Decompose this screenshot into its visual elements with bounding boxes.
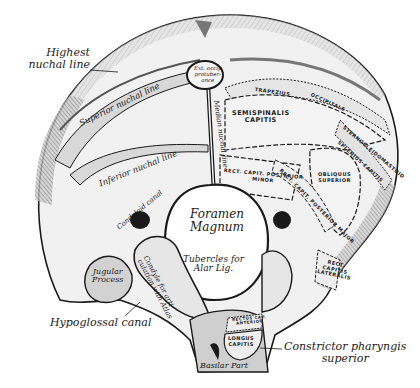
- label-line: Process: [92, 276, 123, 284]
- label-tubercles-alar: Tubercles for Alar Lig.: [183, 255, 244, 274]
- label-line: superior: [284, 353, 406, 365]
- label-semispinalis-capitis: SEMISPINALIS CAPITIS: [232, 110, 290, 124]
- label-line: Highest: [14, 47, 90, 59]
- label-line: Foramen: [190, 208, 244, 221]
- label-hypoglossal-canal: Hypoglossal canal: [50, 317, 151, 329]
- label-jugular-process: Jugular Process: [92, 268, 123, 285]
- label-obliquus-superior: OBLIQUUS SUPERIOR: [318, 172, 351, 183]
- label-line: nuchal line: [14, 59, 90, 71]
- label-basilar-part: Basilar Part: [200, 362, 248, 370]
- label-ext-occip-protuberance: Ext. occip protuber- ance: [194, 66, 222, 83]
- occipital-bone-figure: Highest nuchal line Hypoglossal canal Co…: [0, 0, 420, 388]
- label-line: CAPITIS: [232, 117, 290, 124]
- label-line: ance: [194, 78, 222, 84]
- label-line: Magnum: [190, 221, 244, 234]
- label-longus-capitis: LONGUS CAPITIS: [228, 336, 254, 347]
- label-highest-nuchal-line: Highest nuchal line: [14, 47, 90, 70]
- label-line: Constrictor pharyngis: [284, 341, 406, 353]
- label-line: CAPITIS: [228, 342, 254, 348]
- label-foramen-magnum: Foramen Magnum: [190, 208, 244, 233]
- label-constrictor-pharyngis: Constrictor pharyngis superior: [284, 341, 406, 364]
- label-line: Alar Lig.: [183, 264, 244, 273]
- label-line: SUPERIOR: [318, 178, 351, 184]
